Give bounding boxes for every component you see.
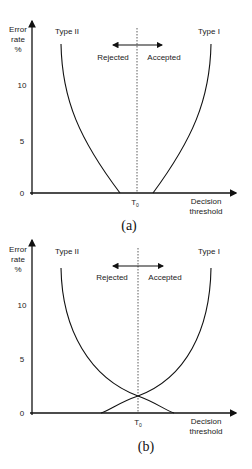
type1-label: Type I <box>198 27 220 36</box>
y-tick-10: 10 <box>18 81 27 90</box>
y-label-error: Error <box>9 245 27 254</box>
x-label-threshold: threshold <box>190 207 223 216</box>
y-tick-5: 5 <box>20 137 25 146</box>
rejected-label: Rejected <box>97 53 129 62</box>
type1-curve <box>101 268 211 413</box>
panel-b: Error rate % 10 5 0 Type II Type I Rejec… <box>9 240 236 455</box>
y-tick-5: 5 <box>20 355 25 364</box>
y-label-rate: rate <box>11 255 25 264</box>
x-label-threshold: threshold <box>190 427 223 436</box>
rejected-label: Rejected <box>96 273 128 282</box>
y-tick-10: 10 <box>18 301 27 310</box>
type1-curve <box>153 44 211 193</box>
caption-a: (a) <box>121 218 137 234</box>
x-label-decision: Decision <box>191 417 222 426</box>
y-label-pct: % <box>14 265 21 274</box>
caption-b: (b) <box>138 439 155 455</box>
type2-curve <box>61 44 120 193</box>
accepted-label: Accepted <box>148 273 181 282</box>
t0-label: T0 <box>134 418 142 428</box>
accepted-label: Accepted <box>147 53 180 62</box>
panel-a: Error rate % 10 5 0 Type II Type I Rejec… <box>9 21 236 234</box>
type2-label: Type II <box>55 27 79 36</box>
y-label-pct: % <box>14 45 21 54</box>
y-label-rate: rate <box>11 35 25 44</box>
t0-label: T0 <box>131 198 139 208</box>
figure: Error rate % 10 5 0 Type II Type I Rejec… <box>0 0 252 469</box>
y-label-error: Error <box>9 25 27 34</box>
x-label-decision: Decision <box>191 197 222 206</box>
type2-label: Type II <box>55 247 79 256</box>
type2-curve <box>61 268 174 413</box>
type1-label: Type I <box>198 247 220 256</box>
y-tick-0: 0 <box>20 409 25 418</box>
y-tick-0: 0 <box>20 189 25 198</box>
